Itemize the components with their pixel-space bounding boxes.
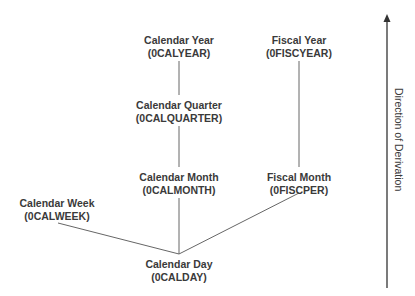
node-name: Calendar Quarter bbox=[136, 99, 222, 112]
node-calendar-year: Calendar Year (0CALYEAR) bbox=[144, 34, 214, 60]
node-calendar-week: Calendar Week (0CALWEEK) bbox=[19, 197, 94, 223]
edge-fiscper-day bbox=[179, 193, 299, 254]
node-code: (0CALYEAR) bbox=[144, 47, 214, 60]
node-code: (0CALDAY) bbox=[145, 271, 212, 284]
node-calendar-quarter: Calendar Quarter (0CALQUARTER) bbox=[136, 99, 222, 125]
node-name: Calendar Year bbox=[144, 34, 214, 47]
node-code: (0FISCPER) bbox=[267, 184, 331, 197]
node-name: Calendar Day bbox=[145, 258, 212, 271]
node-name: Fiscal Month bbox=[267, 171, 331, 184]
node-code: (0FISCYEAR) bbox=[266, 47, 332, 60]
node-code: (0CALQUARTER) bbox=[136, 112, 222, 125]
node-fiscal-month: Fiscal Month (0FISCPER) bbox=[267, 171, 331, 197]
arrow-up-icon bbox=[384, 14, 391, 22]
node-name: Calendar Week bbox=[19, 197, 94, 210]
node-calendar-month: Calendar Month (0CALMONTH) bbox=[139, 171, 218, 197]
node-fiscal-year: Fiscal Year (0FISCYEAR) bbox=[266, 34, 332, 60]
node-name: Fiscal Year bbox=[266, 34, 332, 47]
direction-of-derivation-label: Direction of Derivation bbox=[393, 88, 405, 191]
node-code: (0CALMONTH) bbox=[139, 184, 218, 197]
node-code: (0CALWEEK) bbox=[19, 210, 94, 223]
node-name: Calendar Month bbox=[139, 171, 218, 184]
edge-week-day bbox=[58, 223, 179, 254]
node-calendar-day: Calendar Day (0CALDAY) bbox=[145, 258, 212, 284]
